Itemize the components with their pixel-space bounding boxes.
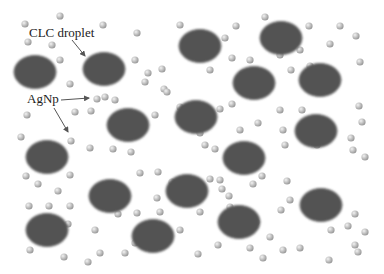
- clc-droplet: [175, 101, 217, 134]
- clc-droplet-label: CLC droplet: [29, 26, 94, 39]
- agnp-particle: [336, 22, 343, 29]
- agnp-particle: [101, 93, 108, 100]
- arrow-icon: [61, 98, 89, 100]
- agnp-particle: [154, 168, 161, 175]
- agnp-particle: [347, 134, 354, 141]
- agnp-particle: [141, 78, 148, 85]
- agnp-particle: [356, 58, 363, 65]
- agnp-particle: [121, 249, 128, 256]
- clc-droplet: [14, 56, 56, 89]
- agnp-particle: [261, 13, 268, 20]
- agnp-particle: [349, 146, 356, 153]
- agnp-particle: [216, 176, 223, 183]
- agnp-particle: [352, 32, 359, 39]
- agnp-particle: [48, 41, 55, 48]
- agnp-particle: [276, 106, 283, 113]
- agnp-particle: [96, 249, 103, 256]
- agnp-particle: [206, 66, 213, 73]
- agnp-particle: [206, 175, 213, 182]
- agnp-particle: [351, 241, 358, 248]
- agnp-particle: [66, 80, 73, 87]
- agnp-particle: [236, 126, 243, 133]
- agnp-particle: [358, 118, 365, 125]
- agnp-particle: [298, 106, 305, 113]
- agnp-particle: [26, 246, 33, 253]
- agnp-particle: [131, 56, 138, 63]
- agnp-particle: [176, 226, 183, 233]
- clc-droplet: [107, 109, 149, 142]
- agnp-particle: [214, 241, 221, 248]
- clc-droplet: [89, 180, 131, 213]
- agnp-particle: [254, 119, 261, 126]
- agnp-particle: [136, 169, 143, 176]
- agnp-particle: [66, 171, 73, 178]
- clc-droplet: [132, 220, 174, 253]
- agnp-particle: [279, 126, 286, 133]
- agnp-particle: [111, 96, 118, 103]
- agnp-particle: [225, 192, 232, 199]
- agnp-particle: [176, 21, 183, 28]
- agnp-particle: [87, 107, 94, 114]
- agnp-particle: [221, 34, 228, 41]
- agnp-particle: [99, 21, 106, 28]
- agnp-particle: [296, 244, 303, 251]
- agnp-particle: [327, 226, 334, 233]
- clc-agnp-diagram: CLC droplet AgNp: [0, 0, 384, 274]
- agnp-particle: [133, 29, 140, 36]
- agnp-particle: [305, 22, 312, 29]
- agnp-particle: [232, 22, 239, 29]
- agnp-particle: [228, 100, 235, 107]
- agnp-particle: [91, 226, 98, 233]
- agnp-particle: [259, 254, 266, 261]
- agnp-particle: [351, 210, 358, 217]
- agnp-particle: [344, 222, 351, 229]
- agnp-particle: [216, 105, 223, 112]
- agnp-particle: [326, 40, 333, 47]
- arrow-icon: [72, 40, 85, 56]
- agnp-particle: [45, 202, 52, 209]
- agnp-particle: [156, 208, 163, 215]
- agnp-particle: [354, 248, 361, 255]
- clc-droplet: [299, 64, 341, 97]
- agnp-particle: [266, 233, 273, 240]
- agnp-particle: [151, 111, 158, 118]
- agnp-particle: [25, 202, 32, 209]
- agnp-particle: [56, 12, 63, 19]
- agnp-particle: [23, 111, 30, 118]
- agnp-particle: [144, 69, 151, 76]
- clc-droplet: [166, 175, 208, 208]
- clc-droplet: [26, 214, 68, 247]
- clc-droplet: [233, 67, 275, 100]
- agnp-particle: [163, 88, 170, 95]
- clc-droplet: [295, 115, 337, 148]
- agnp-particle: [283, 177, 290, 184]
- clc-droplets: [14, 22, 342, 253]
- agnp-particle: [109, 145, 116, 152]
- agnp-particle: [22, 172, 29, 179]
- agnp-particle: [67, 137, 74, 144]
- agnp-particle: [201, 141, 208, 148]
- agnp-particle: [66, 202, 73, 209]
- agnp-label: AgNp: [27, 92, 59, 105]
- clc-droplet: [218, 206, 260, 239]
- agnp-particle: [153, 194, 160, 201]
- agnp-particle: [86, 144, 93, 151]
- agnp-particle: [246, 244, 253, 251]
- clc-droplet: [223, 142, 265, 175]
- agnp-particle: [21, 20, 28, 27]
- agnp-particle: [133, 209, 140, 216]
- agnp-particle: [84, 258, 91, 265]
- agnp-particle: [228, 54, 235, 61]
- clc-droplet: [300, 189, 342, 222]
- agnp-particle: [196, 208, 203, 215]
- clc-droplet: [26, 141, 68, 174]
- agnp-particle: [211, 145, 218, 152]
- agnp-particle: [249, 180, 256, 187]
- agnp-particle: [60, 253, 67, 260]
- diagram-artwork: [0, 0, 384, 274]
- agnp-particle: [286, 196, 293, 203]
- agnp-particle: [194, 250, 201, 257]
- agnp-particle: [54, 187, 61, 194]
- agnp-particle: [127, 148, 134, 155]
- agnp-particle: [17, 133, 24, 140]
